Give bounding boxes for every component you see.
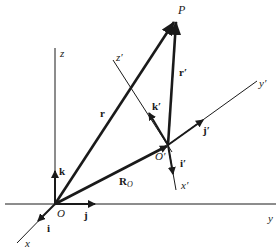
label-unit-j-prime: j′ xyxy=(202,124,210,136)
label-unit-k: k xyxy=(59,165,66,177)
label-vector-r-prime: r′ xyxy=(179,66,187,78)
label-unit-k-prime: k′ xyxy=(152,100,161,112)
label-origin-O-prime: O′ xyxy=(155,150,166,162)
vector-r xyxy=(55,22,174,204)
label-x-axis: x xyxy=(24,237,30,249)
unit-vector-k-prime xyxy=(149,113,168,145)
label-vector-R-O: RO xyxy=(119,175,133,189)
label-origin-O: O xyxy=(57,207,65,219)
label-x-prime-axis: x′ xyxy=(180,179,189,191)
label-z-prime-axis: z′ xyxy=(115,51,123,63)
label-unit-i-prime: i′ xyxy=(180,157,186,169)
label-y-axis: y xyxy=(267,212,273,224)
unit-vector-j-prime xyxy=(168,120,203,145)
label-unit-j: j xyxy=(83,209,88,221)
label-point-P: P xyxy=(177,3,186,17)
diagram-canvas: z y x O k j i P r r′ RO z′ y′ x′ O′ k′ j… xyxy=(0,0,280,251)
unit-vector-i xyxy=(38,204,55,221)
label-z-axis: z xyxy=(59,47,65,59)
label-unit-i: i xyxy=(47,222,50,234)
label-y-prime-axis: y′ xyxy=(258,77,267,89)
vector-r-prime xyxy=(168,22,176,145)
vector-R-O xyxy=(55,146,167,204)
label-vector-r: r xyxy=(100,107,105,119)
